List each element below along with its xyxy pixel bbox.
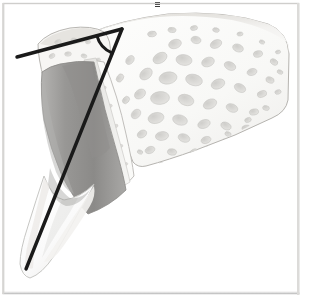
figure-stage: 0 (0, 0, 312, 306)
top-tick-mark (155, 2, 160, 7)
anatomical-illustration-svg: 0 (0, 0, 312, 306)
figure-frame: 0 (0, 0, 312, 306)
